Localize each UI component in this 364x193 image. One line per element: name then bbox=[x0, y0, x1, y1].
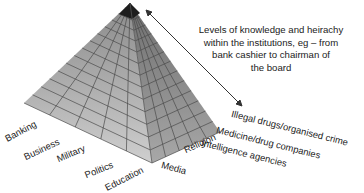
caption-line: bank cashier to chairman of bbox=[178, 49, 364, 62]
caption-line: within the institutions, eg – from bbox=[178, 37, 364, 50]
hierarchy-caption: Levels of knowledge and heirachy within … bbox=[178, 24, 364, 74]
caption-line: the board bbox=[178, 62, 364, 75]
caption-line: Levels of knowledge and heirachy bbox=[178, 24, 364, 37]
